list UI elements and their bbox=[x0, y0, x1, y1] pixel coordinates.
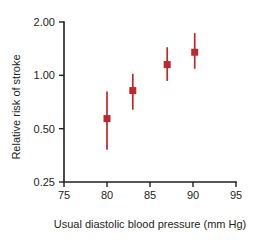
axis-lines bbox=[64, 22, 236, 182]
data-point-marker bbox=[164, 61, 171, 68]
chart-canvas: 0.250.501.002.00 7580859095 Relative ris… bbox=[0, 0, 258, 242]
stroke-risk-chart-figure: 0.250.501.002.00 7580859095 Relative ris… bbox=[0, 0, 258, 242]
data-point-marker bbox=[129, 87, 136, 94]
x-axis-tick-label: 90 bbox=[187, 189, 199, 201]
x-axis-title: Usual diastolic blood pressure (mm Hg) bbox=[54, 218, 247, 230]
data-series-group bbox=[104, 33, 199, 150]
data-point-marker bbox=[104, 115, 111, 122]
y-axis-tick-group: 0.250.501.002.00 bbox=[34, 16, 64, 188]
x-axis-tick-label: 95 bbox=[230, 189, 242, 201]
y-axis-tick-label: 0.50 bbox=[34, 123, 55, 135]
x-axis-tick-label: 75 bbox=[58, 189, 70, 201]
y-axis-tick-label: 0.25 bbox=[34, 176, 55, 188]
x-axis-tick-label: 80 bbox=[101, 189, 113, 201]
y-axis-tick-label: 2.00 bbox=[34, 16, 55, 28]
x-axis-tick-group: 7580859095 bbox=[58, 182, 242, 201]
y-axis-title: Relative risk of stroke bbox=[10, 54, 22, 159]
data-point-marker bbox=[191, 49, 198, 56]
x-axis-tick-label: 85 bbox=[144, 189, 156, 201]
y-axis-tick-label: 1.00 bbox=[34, 69, 55, 81]
